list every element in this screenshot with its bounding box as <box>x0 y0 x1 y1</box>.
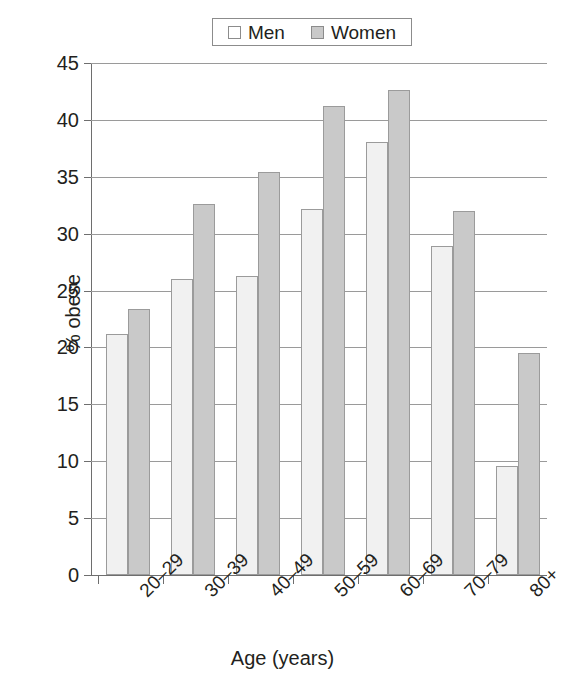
bar-women-80+ <box>518 353 540 575</box>
legend-swatch-men-icon <box>228 26 241 39</box>
chart-legend: Men Women <box>212 18 412 46</box>
y-axis-tick <box>84 518 91 519</box>
legend-label-men: Men <box>248 23 285 42</box>
legend-label-women: Women <box>331 23 396 42</box>
y-axis-tick <box>84 461 91 462</box>
y-axis-tick <box>84 291 91 292</box>
x-axis-title: Age (years) <box>0 648 565 668</box>
legend-entry-women: Women <box>311 23 396 42</box>
bar-women-20–29 <box>128 309 150 575</box>
x-axis-label-60–69: 60–69 <box>396 587 409 600</box>
x-axis-label-70–79: 70–79 <box>461 587 474 600</box>
y-axis-tick <box>84 120 91 121</box>
y-axis-tick-label: 15 <box>57 394 79 414</box>
x-axis-label-50–59: 50–59 <box>331 587 344 600</box>
bar-women-50–59 <box>323 106 345 575</box>
y-axis-tick-label: 40 <box>57 110 79 130</box>
y-axis-tick <box>84 234 91 235</box>
y-axis-tick <box>84 63 91 64</box>
y-axis-tick <box>84 575 91 576</box>
y-axis-tick-label: 30 <box>57 224 79 244</box>
bar-men-20–29 <box>106 334 128 575</box>
y-axis-line <box>91 63 92 575</box>
bar-men-60–69 <box>366 142 388 575</box>
bar-chart: Men Women 051015202530354045 20–2930–394… <box>0 0 565 684</box>
bar-women-70–79 <box>453 211 475 575</box>
legend-entry-men: Men <box>228 23 285 42</box>
y-axis-tick-label: 10 <box>57 451 79 471</box>
plot-area: 051015202530354045 20–2930–3940–4950–596… <box>91 63 547 575</box>
y-axis-tick-label: 5 <box>68 508 79 528</box>
y-axis-tick <box>84 177 91 178</box>
bar-women-40–49 <box>258 172 280 575</box>
x-axis-label-40–49: 40–49 <box>266 587 279 600</box>
gridline <box>91 177 547 178</box>
y-axis-tick <box>84 404 91 405</box>
y-axis-tick-label: 0 <box>68 565 79 585</box>
gridline <box>91 120 547 121</box>
x-axis-label-30–39: 30–39 <box>201 587 214 600</box>
y-axis-tick-label: 35 <box>57 167 79 187</box>
legend-swatch-women-icon <box>311 26 324 39</box>
gridline <box>91 63 547 64</box>
x-axis-label-80+: 80+ <box>526 587 539 600</box>
bar-women-60–69 <box>388 90 410 575</box>
x-axis-label-20–29: 20–29 <box>136 587 149 600</box>
bar-men-50–59 <box>301 209 323 575</box>
y-axis-tick <box>84 347 91 348</box>
y-axis-tick-label: 45 <box>57 53 79 73</box>
y-axis-title: % obese <box>63 274 83 352</box>
bar-men-40–49 <box>236 276 258 575</box>
bar-women-30–39 <box>193 204 215 575</box>
bar-men-30–39 <box>171 279 193 575</box>
bar-men-70–79 <box>431 246 453 575</box>
x-axis-tick <box>98 575 99 584</box>
